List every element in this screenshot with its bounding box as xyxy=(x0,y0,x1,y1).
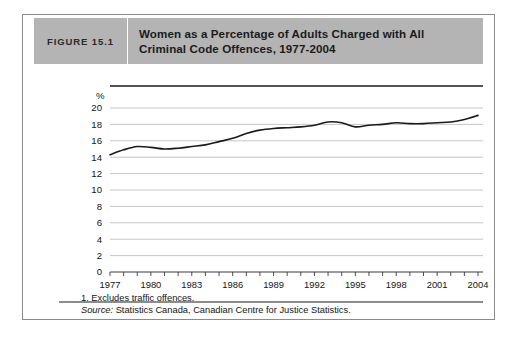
y-axis-tick-label: 6 xyxy=(97,217,102,228)
y-axis-tick-label: 8 xyxy=(97,201,102,212)
y-axis-tick-label: 14 xyxy=(91,152,102,163)
x-axis-tick-label: 1992 xyxy=(304,279,325,290)
x-axis-tick-label: 1977 xyxy=(100,279,121,290)
y-axis-tick-label: 16 xyxy=(91,135,102,146)
figure-label-cell: FIGURE 15.1 xyxy=(34,18,128,64)
figure-label: FIGURE 15.1 xyxy=(47,36,114,47)
y-axis-tick-label: 2 xyxy=(97,250,102,261)
footnotes: 1. Excludes traffic offences. Source: St… xyxy=(81,292,481,316)
x-axis-tick-label: 1995 xyxy=(345,279,366,290)
y-axis-tick-label: 12 xyxy=(91,168,102,179)
x-axis-tick-label: 1986 xyxy=(222,279,243,290)
x-axis-tick-label: 1989 xyxy=(263,279,284,290)
x-axis-tick-label: 2001 xyxy=(427,279,448,290)
y-axis-tick-label: 4 xyxy=(97,234,103,245)
x-axis-tick-label: 1998 xyxy=(386,279,407,290)
footnote-source: Source: Statistics Canada, Canadian Cent… xyxy=(81,304,481,316)
line-chart: %024681012141618201977198019831986198919… xyxy=(23,65,494,320)
chart-area: %024681012141618201977198019831986198919… xyxy=(23,65,494,320)
figure-title-line-1: Women as a Percentage of Adults Charged … xyxy=(139,26,483,42)
footnote-excludes-traffic: 1. Excludes traffic offences. xyxy=(81,292,481,304)
figure-title-line-2: Criminal Code Offences, 1977-2004 xyxy=(139,41,483,57)
y-axis-tick-label: 10 xyxy=(91,184,102,195)
x-axis-tick-label: 1983 xyxy=(181,279,202,290)
data-line-series xyxy=(110,115,478,154)
x-axis-tick-label: 1980 xyxy=(140,279,161,290)
y-axis-tick-label: 0 xyxy=(97,266,102,277)
y-axis-tick-label: 20 xyxy=(91,102,102,113)
figure-header: FIGURE 15.1 Women as a Percentage of Adu… xyxy=(34,18,483,64)
figure-frame: FIGURE 15.1 Women as a Percentage of Adu… xyxy=(22,14,495,320)
y-axis-tick-label: 18 xyxy=(91,119,102,130)
x-axis-tick-label: 2004 xyxy=(468,279,489,290)
source-label: Source: xyxy=(81,305,113,315)
figure-title-cell: Women as a Percentage of Adults Charged … xyxy=(128,18,483,64)
y-axis-unit-label: % xyxy=(96,90,105,101)
source-text: Statistics Canada, Canadian Centre for J… xyxy=(113,305,351,315)
